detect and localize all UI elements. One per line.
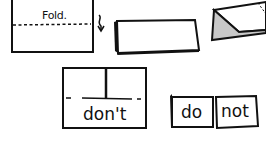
diagram-drawing <box>0 0 266 145</box>
step1-sheet <box>12 0 93 52</box>
flap-label-dont: don't <box>83 104 126 124</box>
card-label-not: not <box>221 101 249 121</box>
fold-label: Fold. <box>42 9 67 22</box>
step2-folded-sheet <box>114 20 199 55</box>
step3-folded-corner <box>212 2 266 40</box>
fold-arrow-icon <box>98 15 104 31</box>
card-label-do: do <box>181 102 202 122</box>
